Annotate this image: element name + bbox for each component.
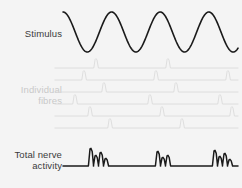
trace-canvas	[0, 0, 242, 188]
stimulus-sine-path	[63, 12, 238, 52]
individual-fibre-traces	[55, 59, 238, 129]
total-nerve-activity-trace	[63, 148, 238, 166]
total-nerve-path	[63, 148, 238, 166]
fibre-trace-3	[55, 95, 238, 105]
fibre-trace-1	[55, 71, 238, 81]
fibre-trace-4	[55, 107, 238, 117]
fibre-trace-5	[55, 119, 238, 129]
stimulus-trace	[63, 12, 238, 52]
neural-coding-figure: Stimulus Individual fibres Total nerve a…	[0, 0, 242, 188]
fibre-trace-0	[55, 59, 238, 69]
fibre-trace-2	[55, 83, 238, 93]
